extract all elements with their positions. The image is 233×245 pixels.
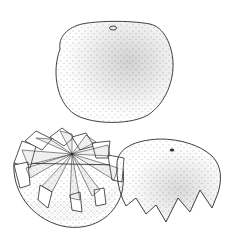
bottom-half [14,128,124,227]
cap-half [117,139,221,222]
whole-fruit [56,21,173,122]
citrus-illustration [0,0,233,245]
stem-scar-icon [170,148,174,151]
